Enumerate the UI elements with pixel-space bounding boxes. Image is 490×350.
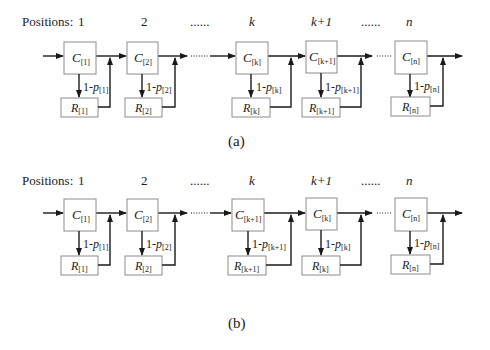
feedback-arrow xyxy=(270,58,291,107)
positions-label: Positions: xyxy=(22,173,73,188)
svg-text:1-p[n]: 1-p[n] xyxy=(414,236,440,251)
position-n: n xyxy=(406,14,413,29)
feedback-arrow xyxy=(430,58,443,106)
feedback-arrow xyxy=(340,58,361,107)
feedback-arrow xyxy=(266,215,291,265)
stage-k-plus-1-swapped: C[k] 1-p[k] R[k] xyxy=(302,198,361,275)
feedback-arrow xyxy=(162,215,175,265)
position-n: n xyxy=(406,173,413,188)
svg-text:1-p[2]: 1-p[2] xyxy=(146,237,172,252)
svg-text:1-p[k+1]: 1-p[k+1] xyxy=(252,237,286,252)
stage-k: C[k] 1-p[k] R[k] xyxy=(232,42,291,117)
stage-n: C[n] 1-p[n] R[n] xyxy=(391,198,443,274)
diagram-a: Positions: 1 2 ...... k k+1 ...... n C[1… xyxy=(22,14,462,150)
caption-b: (b) xyxy=(228,315,246,332)
svg-text:1-p[n]: 1-p[n] xyxy=(414,79,440,94)
position-2: 2 xyxy=(141,173,148,188)
feedback-arrow xyxy=(162,58,175,107)
series-system-diagram: Positions: 1 2 ...... k k+1 ...... n C[1… xyxy=(0,0,490,350)
feedback-arrow xyxy=(98,215,110,265)
position-2: 2 xyxy=(141,14,148,29)
position-1: 1 xyxy=(78,14,85,29)
svg-text:1-p[k]: 1-p[k] xyxy=(325,237,351,252)
diagram-b: Positions: 1 2 ...... k k+1 ...... n C[1… xyxy=(22,173,462,332)
position-k: k xyxy=(249,14,255,29)
feedback-arrow xyxy=(98,58,110,107)
svg-text:1-p[k]: 1-p[k] xyxy=(256,80,282,95)
stage-2: C[2] 1-p[2] R[2] xyxy=(125,42,175,117)
position-ellipsis: ...... xyxy=(361,173,381,188)
position-k-plus-1: k+1 xyxy=(311,173,332,188)
position-k: k xyxy=(249,173,255,188)
position-k-plus-1: k+1 xyxy=(311,14,332,29)
svg-text:1-p[1]: 1-p[1] xyxy=(83,80,109,95)
position-ellipsis: ...... xyxy=(361,14,381,29)
stage-n: C[n] 1-p[n] R[n] xyxy=(391,41,443,116)
stage-1: C[1] 1-p[1] R[1] xyxy=(61,199,110,275)
svg-text:1-p[k+1]: 1-p[k+1] xyxy=(325,80,359,95)
stage-2: C[2] 1-p[2] R[2] xyxy=(125,199,175,275)
feedback-arrow xyxy=(340,215,361,265)
caption-a: (a) xyxy=(228,133,245,150)
positions-row-b: Positions: 1 2 ...... k k+1 ...... n xyxy=(22,173,413,188)
stage-k-plus-1: C[k+1] 1-p[k+1] R[k+1] xyxy=(302,41,361,117)
stage-k-swapped: C[k+1] 1-p[k+1] R[k+1] xyxy=(228,199,291,275)
position-ellipsis: ...... xyxy=(190,14,210,29)
stage-1: C[1] 1-p[1] R[1] xyxy=(61,42,110,117)
positions-label: Positions: xyxy=(22,14,73,29)
svg-text:1-p[2]: 1-p[2] xyxy=(146,80,172,95)
position-ellipsis: ...... xyxy=(190,173,210,188)
feedback-arrow xyxy=(430,215,443,264)
position-1: 1 xyxy=(78,173,85,188)
positions-row-a: Positions: 1 2 ...... k k+1 ...... n xyxy=(22,14,413,29)
svg-text:1-p[1]: 1-p[1] xyxy=(83,237,109,252)
